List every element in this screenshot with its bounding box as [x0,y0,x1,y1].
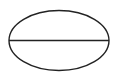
diagram-canvas [0,0,118,82]
